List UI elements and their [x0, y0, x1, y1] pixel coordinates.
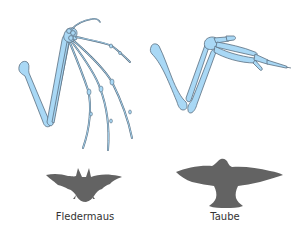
- pigeon-wing-skeleton: [150, 36, 287, 113]
- bat-wing-digits: [70, 19, 132, 150]
- bat-label: Fledermaus: [45, 211, 125, 222]
- bat-humerus: [19, 61, 51, 126]
- wing-homology-diagram: [0, 0, 298, 233]
- bat-wing-skeleton: [19, 28, 77, 127]
- bat-silhouette: [46, 168, 122, 202]
- pigeon-carpal-top: [226, 36, 236, 41]
- bat-carpal-bone: [71, 31, 76, 36]
- pigeon-humerus: [150, 44, 187, 110]
- pigeon-digit-major-2: [267, 60, 288, 68]
- pigeon-silhouette-body: [176, 159, 283, 208]
- bat-foot-left: [73, 195, 76, 199]
- pigeon-label: Taube: [190, 211, 260, 222]
- bat-silhouette-body: [46, 168, 122, 202]
- pigeon-silhouette: [176, 159, 283, 208]
